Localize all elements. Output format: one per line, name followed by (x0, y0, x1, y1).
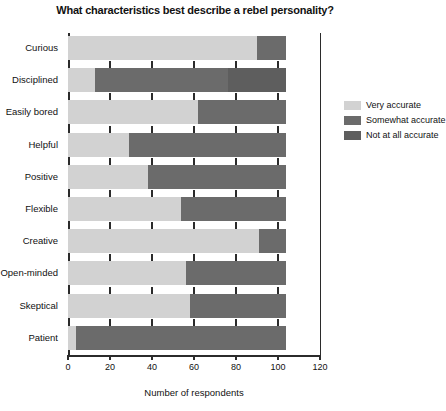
bar-row (68, 197, 286, 221)
bar-row (68, 261, 286, 285)
bar-segment (68, 197, 181, 221)
legend-label: Very accurate (366, 100, 421, 110)
interior-tick (109, 93, 110, 100)
interior-tick (193, 190, 194, 197)
interior-tick (151, 126, 152, 133)
x-axis-tick-label: 120 (312, 362, 327, 372)
legend-item[interactable]: Very accurate (344, 100, 446, 110)
bar-segment (76, 326, 286, 350)
interior-tick (193, 287, 194, 294)
legend-label: Somewhat accurate (366, 115, 446, 125)
interior-tick (235, 93, 236, 100)
interior-tick (151, 254, 152, 261)
bar-segment (68, 100, 198, 124)
interior-tick (109, 254, 110, 261)
interior-tick (109, 287, 110, 294)
interior-tick (193, 126, 194, 133)
interior-tick (151, 222, 152, 229)
bar-segment (186, 261, 287, 285)
interior-tick (109, 126, 110, 133)
interior-tick (109, 158, 110, 165)
y-axis-label: Skeptical (19, 300, 58, 311)
interior-tick (109, 61, 110, 68)
interior-tick (193, 254, 194, 261)
interior-tick (235, 222, 236, 229)
bar-segment (68, 165, 148, 189)
interior-tick (277, 287, 278, 294)
y-axis-label: Disciplined (12, 74, 58, 85)
interior-tick (277, 319, 278, 326)
bar-segment (129, 133, 287, 157)
interior-tick (235, 158, 236, 165)
chart-title: What characteristics best describe a reb… (0, 4, 390, 16)
interior-tick (151, 93, 152, 100)
bar-segment (68, 261, 186, 285)
legend-label: Not at all accurate (366, 130, 439, 140)
interior-tick (151, 319, 152, 326)
bar-segment (257, 36, 286, 60)
bar-segment (68, 133, 129, 157)
bar-segment (68, 326, 76, 350)
bar-segment (181, 197, 286, 221)
interior-tick (193, 222, 194, 229)
x-axis-tick (67, 355, 68, 360)
bar-row (68, 165, 286, 189)
interior-tick (277, 254, 278, 261)
y-axis-label: Creative (23, 235, 58, 246)
legend-swatch (344, 131, 361, 140)
x-axis-tick (277, 355, 278, 360)
bar-row (68, 294, 286, 318)
bar-row (68, 229, 286, 253)
y-axis-label: Flexible (25, 203, 58, 214)
interior-tick (277, 222, 278, 229)
y-axis-category-labels: CuriousDisciplinedEasily boredHelpfulPos… (0, 33, 64, 355)
y-axis-label: Positive (25, 171, 58, 182)
interior-tick (151, 190, 152, 197)
x-axis-tick-label: 60 (189, 362, 199, 372)
interior-tick (193, 61, 194, 68)
bar-row (68, 68, 286, 92)
interior-tick (277, 190, 278, 197)
bar-segment (228, 68, 287, 92)
y-axis-label: Easily bored (6, 106, 58, 117)
legend-swatch (344, 101, 361, 110)
bar-row (68, 100, 286, 124)
legend-item[interactable]: Not at all accurate (344, 130, 446, 140)
bar-segment (68, 36, 257, 60)
interior-tick (151, 61, 152, 68)
x-axis-tick-label: 0 (65, 362, 70, 372)
x-axis-tick (319, 355, 320, 360)
chart-legend: Very accurateSomewhat accurateNot at all… (344, 100, 446, 145)
interior-tick (235, 254, 236, 261)
interior-tick (151, 287, 152, 294)
interior-tick (235, 319, 236, 326)
bar-row (68, 326, 286, 350)
interior-tick (235, 126, 236, 133)
interior-tick (151, 158, 152, 165)
bar-row (68, 36, 286, 60)
y-axis-label: Patient (28, 332, 58, 343)
interior-tick (277, 126, 278, 133)
interior-tick (235, 287, 236, 294)
bar-segment (68, 68, 95, 92)
y-axis-label: Helpful (28, 139, 58, 150)
interior-tick (109, 319, 110, 326)
x-axis-tick (235, 355, 236, 360)
x-axis-tick-label: 20 (105, 362, 115, 372)
bar-segment (259, 229, 286, 253)
interior-tick (193, 93, 194, 100)
x-axis-tick (151, 355, 152, 360)
interior-tick (277, 93, 278, 100)
legend-item[interactable]: Somewhat accurate (344, 115, 446, 125)
interior-tick (109, 190, 110, 197)
plot-area (68, 33, 320, 355)
bar-segment (95, 68, 227, 92)
x-axis-tick-label: 100 (270, 362, 285, 372)
legend-swatch (344, 116, 361, 125)
x-axis-tick-label: 40 (147, 362, 157, 372)
interior-tick (235, 190, 236, 197)
interior-tick (235, 61, 236, 68)
interior-tick (193, 319, 194, 326)
x-axis-tick (193, 355, 194, 360)
